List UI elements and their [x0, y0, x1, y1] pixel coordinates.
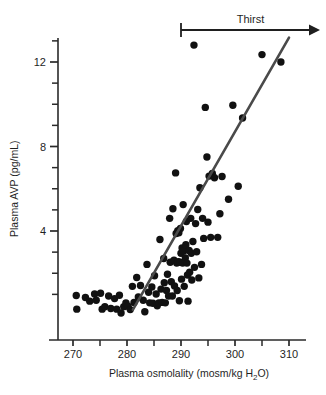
data-point: [169, 205, 176, 212]
data-point: [174, 287, 181, 294]
data-point: [229, 102, 236, 109]
data-point: [192, 220, 199, 227]
data-point: [216, 210, 223, 217]
data-point: [129, 283, 136, 290]
trend-line-layer: [133, 38, 289, 310]
data-point: [116, 292, 123, 299]
data-point: [161, 279, 168, 286]
figure-container: Thirst 4812270280290300310 Plasma AVP (p…: [0, 0, 326, 395]
data-point: [97, 290, 104, 297]
data-point: [214, 234, 221, 241]
data-point: [86, 297, 93, 304]
data-point: [193, 248, 200, 255]
data-point: [225, 196, 232, 203]
y-tick-label: 8: [40, 141, 46, 153]
data-point: [179, 201, 186, 208]
data-point: [211, 174, 218, 181]
data-point: [204, 218, 211, 225]
data-point: [190, 41, 197, 48]
data-point: [183, 259, 190, 266]
data-point: [194, 206, 201, 213]
data-point: [143, 261, 150, 268]
data-point: [156, 236, 163, 243]
scatter-plot: Thirst 4812270280290300310 Plasma AVP (p…: [0, 0, 326, 395]
x-axis-title-main: Plasma osmolality (mosm/kg H: [109, 367, 253, 379]
data-point: [188, 276, 195, 283]
data-point: [198, 261, 205, 268]
axis-label-layer: Plasma AVP (pg/mL)Plasma osmolality (mos…: [8, 141, 269, 382]
data-point: [166, 215, 173, 222]
x-tick-label: 310: [280, 348, 298, 360]
x-tick-label: 270: [64, 348, 82, 360]
data-point: [202, 104, 209, 111]
data-point: [141, 308, 148, 315]
x-tick-label: 280: [118, 348, 136, 360]
thirst-arrow-head: [309, 25, 320, 36]
data-point: [133, 274, 140, 281]
data-point: [258, 51, 265, 58]
data-point: [137, 282, 144, 289]
data-point: [93, 297, 100, 304]
data-point: [73, 305, 80, 312]
data-point: [178, 275, 185, 282]
data-point: [195, 274, 202, 281]
y-tick-label: 12: [34, 56, 46, 68]
data-point: [73, 292, 80, 299]
data-point: [172, 169, 179, 176]
x-axis-title: Plasma osmolality (mosm/kg H2O): [109, 367, 269, 382]
data-point: [184, 297, 191, 304]
data-point: [200, 235, 207, 242]
regression-line: [133, 38, 289, 310]
data-point: [235, 183, 242, 190]
y-tick-label: 4: [40, 225, 46, 237]
data-point: [176, 297, 183, 304]
data-point: [117, 309, 124, 316]
data-point: [162, 299, 169, 306]
thirst-label: Thirst: [237, 13, 265, 25]
data-point: [189, 238, 196, 245]
annotation-layer: Thirst: [181, 13, 320, 37]
data-point: [148, 283, 155, 290]
data-points-layer: [73, 41, 285, 316]
data-point: [218, 173, 225, 180]
x-tick-label: 290: [172, 348, 190, 360]
data-point: [277, 58, 284, 65]
data-point: [191, 264, 198, 271]
x-axis-title-tail: O): [257, 367, 269, 379]
data-point: [164, 271, 171, 278]
data-point: [181, 283, 188, 290]
data-point: [203, 153, 210, 160]
y-axis-title: Plasma AVP (pg/mL): [8, 141, 20, 237]
x-tick-label: 300: [226, 348, 244, 360]
data-point: [207, 234, 214, 241]
